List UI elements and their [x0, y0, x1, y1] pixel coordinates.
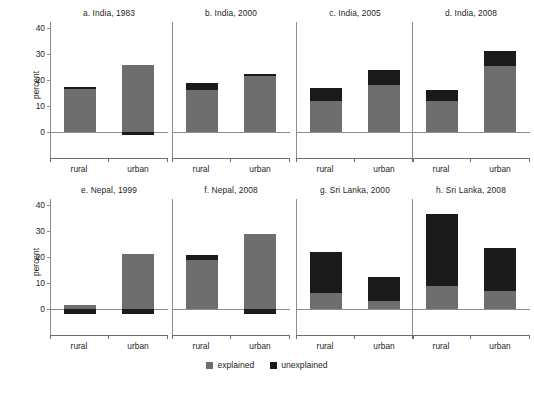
panel-title: g. Sri Lanka, 2000	[296, 185, 414, 195]
x-tick-rural: rural	[56, 341, 102, 351]
legend-swatch-unexplained-icon	[270, 362, 277, 369]
plot-area: rural urban	[412, 22, 530, 158]
y-tick-40: 40	[23, 23, 45, 33]
bar-segment-unexplained	[122, 132, 154, 135]
y-tick-0: 0	[23, 127, 45, 137]
x-tick-urban: urban	[361, 164, 407, 174]
y-axis-line	[296, 22, 297, 158]
bar-segment-unexplained	[368, 277, 400, 302]
bar-segment-explained	[484, 66, 516, 132]
bar-segment-explained	[310, 293, 342, 309]
bar-segment-unexplained	[310, 88, 342, 102]
plot-area: rural urban	[296, 199, 414, 335]
bar-segment-explained	[64, 305, 96, 309]
panel-title: b. India, 2000	[172, 8, 290, 18]
panel-e-nepal-1999: e. Nepal, 1999 percent 40 30 20 10 0	[20, 183, 168, 358]
bar-segment-unexplained	[64, 309, 96, 314]
x-tick-urban: urban	[115, 341, 161, 351]
x-axis-line	[50, 158, 168, 159]
panel-a-india-1983: a. India, 1983 percent 40 30 20 10 0	[20, 6, 168, 181]
bar-segment-unexplained	[186, 83, 218, 90]
y-tick-40: 40	[23, 200, 45, 210]
x-axis-line	[172, 335, 290, 336]
bar-segment-unexplained	[244, 309, 276, 314]
bar-urban	[122, 199, 154, 335]
y-tick-10: 10	[23, 278, 45, 288]
panel-row-top: a. India, 1983 percent 40 30 20 10 0	[0, 6, 534, 181]
x-axis-line	[412, 335, 530, 336]
y-tick-30: 30	[23, 49, 45, 59]
bar-rural	[310, 22, 342, 158]
bar-rural	[426, 199, 458, 335]
y-axis-line	[412, 22, 413, 158]
plot-area: rural urban	[172, 199, 290, 335]
bar-segment-explained	[484, 291, 516, 309]
panel-b-india-2000: b. India, 2000 rural urban	[172, 6, 290, 181]
plot-area: percent 40 30 20 10 0	[50, 199, 168, 335]
y-axis-line	[412, 199, 413, 335]
panel-h-sri-lanka-2008: h. Sri Lanka, 2008 rural urb	[412, 183, 530, 358]
bar-urban	[484, 199, 516, 335]
bar-segment-unexplained	[484, 248, 516, 291]
panel-c-india-2005: c. India, 2005 rural urban	[296, 6, 414, 181]
bar-rural	[426, 22, 458, 158]
x-axis-line	[296, 158, 414, 159]
bar-segment-explained	[64, 89, 96, 132]
x-tick-urban: urban	[477, 341, 523, 351]
y-axis-line	[50, 22, 51, 158]
bar-segment-explained	[122, 65, 154, 132]
bar-segment-explained	[244, 76, 276, 132]
panel-title: d. India, 2008	[412, 8, 530, 18]
x-tick-rural: rural	[178, 341, 224, 351]
x-tick-rural: rural	[418, 341, 464, 351]
bar-segment-explained	[426, 286, 458, 309]
x-tick-rural: rural	[302, 164, 348, 174]
bar-segment-unexplained	[368, 70, 400, 86]
y-axis-line	[172, 199, 173, 335]
y-tick-0: 0	[23, 304, 45, 314]
bar-urban	[484, 22, 516, 158]
x-tick-urban: urban	[237, 164, 283, 174]
plot-area: rural urban	[412, 199, 530, 335]
bar-rural	[186, 22, 218, 158]
legend-label-explained: explained	[217, 360, 254, 370]
y-axis-line	[172, 22, 173, 158]
x-axis-line	[172, 158, 290, 159]
bar-segment-explained	[244, 234, 276, 309]
bar-rural	[310, 199, 342, 335]
x-tick-urban: urban	[361, 341, 407, 351]
bar-segment-explained	[368, 301, 400, 309]
bar-segment-unexplained	[484, 51, 516, 66]
bar-segment-unexplained	[310, 252, 342, 294]
plot-area: rural urban	[296, 22, 414, 158]
bar-segment-unexplained	[426, 90, 458, 101]
bar-rural	[64, 22, 96, 158]
panel-title: f. Nepal, 2008	[172, 185, 290, 195]
bar-rural	[186, 199, 218, 335]
bar-rural	[64, 199, 96, 335]
x-tick-urban: urban	[115, 164, 161, 174]
bar-segment-explained	[186, 90, 218, 132]
y-axis-line	[50, 199, 51, 335]
legend-item-unexplained: unexplained	[270, 360, 327, 370]
panel-row-bottom: e. Nepal, 1999 percent 40 30 20 10 0	[0, 183, 534, 358]
panel-f-nepal-2008: f. Nepal, 2008 rural urban	[172, 183, 290, 358]
y-tick-20: 20	[23, 75, 45, 85]
panel-title: a. India, 1983	[50, 8, 168, 18]
x-tick-rural: rural	[418, 164, 464, 174]
bar-segment-explained	[426, 101, 458, 132]
x-tick-urban: urban	[477, 164, 523, 174]
y-tick-20: 20	[23, 252, 45, 262]
bar-urban	[122, 22, 154, 158]
bar-segment-explained	[368, 85, 400, 132]
bar-segment-unexplained	[426, 214, 458, 286]
x-tick-rural: rural	[302, 341, 348, 351]
y-axis-line	[296, 199, 297, 335]
y-tick-30: 30	[23, 226, 45, 236]
bar-urban	[244, 22, 276, 158]
x-axis-line	[50, 335, 168, 336]
bar-urban	[244, 199, 276, 335]
panel-title: h. Sri Lanka, 2008	[412, 185, 530, 195]
bar-segment-explained	[310, 101, 342, 132]
bar-segment-explained	[122, 254, 154, 309]
